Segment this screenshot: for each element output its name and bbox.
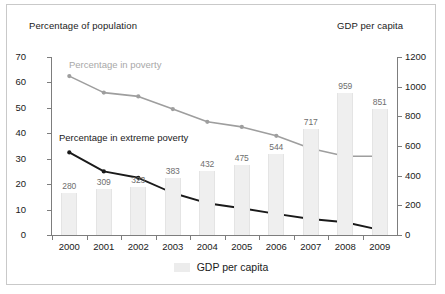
left-axis-caption: Percentage of population bbox=[29, 20, 137, 31]
chart-legend: GDP per capita bbox=[7, 261, 435, 273]
data-point-marker bbox=[102, 169, 106, 173]
bar bbox=[96, 189, 112, 235]
left-tick-label: 70 bbox=[15, 51, 26, 62]
x-tick-mark bbox=[294, 236, 295, 240]
data-point-marker bbox=[136, 94, 140, 98]
x-tick-mark bbox=[87, 236, 88, 240]
x-tick-mark bbox=[363, 236, 364, 240]
left-tick-mark bbox=[47, 133, 51, 134]
right-tick-label: 800 bbox=[405, 110, 421, 121]
right-tick-mark bbox=[398, 235, 402, 236]
x-tick-mark bbox=[259, 236, 260, 240]
left-tick-label: 60 bbox=[15, 76, 26, 87]
bar bbox=[130, 187, 146, 235]
x-tick-mark bbox=[225, 236, 226, 240]
bar-value-label: 544 bbox=[256, 142, 296, 152]
left-tick-label: 30 bbox=[15, 153, 26, 164]
series-label-extreme-poverty: Percentage in extreme poverty bbox=[59, 132, 188, 143]
left-tick-mark bbox=[47, 235, 51, 236]
bar bbox=[61, 193, 77, 235]
right-tick-label: 1200 bbox=[405, 51, 426, 62]
left-tick-mark bbox=[47, 82, 51, 83]
left-tick-mark bbox=[47, 108, 51, 109]
right-tick-label: 1000 bbox=[405, 81, 426, 92]
left-tick-label: 0 bbox=[21, 229, 26, 240]
x-tick-mark bbox=[156, 236, 157, 240]
x-tick-mark bbox=[328, 236, 329, 240]
left-tick-label: 20 bbox=[15, 178, 26, 189]
data-point-marker bbox=[67, 74, 71, 78]
right-tick-mark bbox=[398, 205, 402, 206]
left-tick-label: 50 bbox=[15, 102, 26, 113]
right-tick-mark bbox=[398, 146, 402, 147]
right-tick-mark bbox=[398, 87, 402, 88]
legend-label-gdp-per-capita: GDP per capita bbox=[197, 261, 269, 273]
x-tick-label: 2009 bbox=[360, 241, 400, 252]
right-tick-label: 200 bbox=[405, 199, 421, 210]
bar bbox=[337, 93, 353, 235]
right-tick-mark bbox=[398, 57, 402, 58]
x-tick-mark bbox=[190, 236, 191, 240]
chart-frame: Percentage of population GDP per capita … bbox=[6, 4, 436, 285]
right-axis-caption: GDP per capita bbox=[337, 20, 403, 31]
bar-value-label: 717 bbox=[291, 117, 331, 127]
series-label-poverty: Percentage in poverty bbox=[69, 59, 161, 70]
right-tick-mark bbox=[398, 116, 402, 117]
left-tick-label: 10 bbox=[15, 204, 26, 215]
bar bbox=[303, 129, 319, 235]
data-point-marker bbox=[102, 91, 106, 95]
bar-value-label: 323 bbox=[118, 175, 158, 185]
data-point-marker bbox=[205, 120, 209, 124]
left-tick-label: 40 bbox=[15, 127, 26, 138]
bar-value-label: 475 bbox=[222, 153, 262, 163]
left-tick-mark bbox=[47, 159, 51, 160]
bar bbox=[234, 165, 250, 235]
right-tick-mark bbox=[398, 176, 402, 177]
right-tick-label: 400 bbox=[405, 170, 421, 181]
data-point-marker bbox=[274, 134, 278, 138]
data-point-marker bbox=[67, 150, 71, 154]
bar bbox=[199, 171, 215, 235]
bar-value-label: 959 bbox=[325, 81, 365, 91]
bar bbox=[165, 178, 181, 235]
right-tick-label: 600 bbox=[405, 140, 421, 151]
bar-value-label: 851 bbox=[360, 97, 400, 107]
right-tick-label: 0 bbox=[405, 229, 410, 240]
left-tick-mark bbox=[47, 57, 51, 58]
bar bbox=[268, 154, 284, 235]
data-point-marker bbox=[240, 125, 244, 129]
x-tick-mark bbox=[121, 236, 122, 240]
left-tick-mark bbox=[47, 210, 51, 211]
legend-swatch-gdp-per-capita bbox=[174, 263, 190, 272]
x-tick-mark bbox=[52, 236, 53, 240]
bar bbox=[372, 109, 388, 235]
data-point-marker bbox=[171, 107, 175, 111]
